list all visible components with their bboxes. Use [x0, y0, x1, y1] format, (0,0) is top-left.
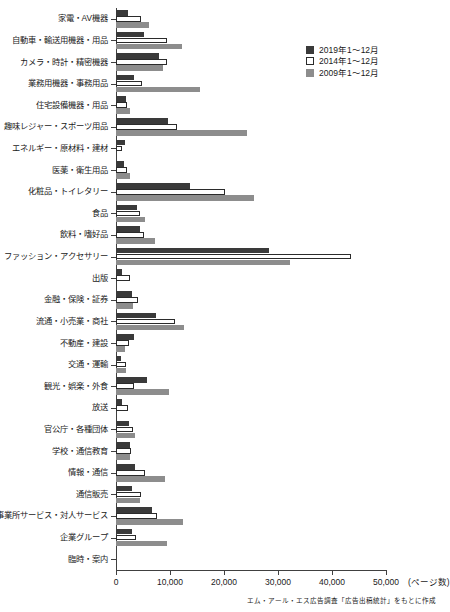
bar-s2014 [116, 124, 177, 130]
x-axis-tick [278, 570, 279, 575]
x-axis-tick-label: 0 [114, 578, 119, 587]
bar-s2009 [116, 519, 183, 525]
bar-s2014 [116, 427, 133, 433]
bar-s2019 [116, 32, 144, 38]
chart-row: 趣味レジャー・スポーツ用品 [116, 116, 386, 138]
chart-row: 学校・通信教育 [116, 440, 386, 462]
bar-s2014 [116, 492, 141, 498]
bar-s2019 [116, 486, 132, 492]
bar-s2009 [116, 108, 130, 114]
bar-s2019 [116, 334, 134, 340]
bar-s2014 [116, 146, 122, 152]
bar-s2019 [116, 118, 168, 124]
bar-s2019 [116, 291, 132, 297]
category-label: 飲料・嗜好品 [60, 230, 108, 238]
bar-s2009 [116, 541, 167, 547]
bar-s2014 [116, 167, 127, 173]
chart-row: 医薬・衛生用品 [116, 159, 386, 181]
chart-row: 流通・小売業・商社 [116, 311, 386, 333]
bar-s2009 [116, 44, 182, 50]
bar-s2009 [116, 130, 247, 136]
legend-label-2019: 2019年1〜12月 [319, 46, 379, 55]
category-label: エネルギー・原材料・建材 [12, 144, 108, 152]
legend-item-2009: 2009年1〜12月 [306, 67, 379, 79]
legend-swatch-2019 [306, 46, 314, 54]
chart-row: 通信販売 [116, 484, 386, 506]
chart-legend: 2019年1〜12月 2014年1〜12月 2009年1〜12月 [306, 44, 379, 79]
bar-s2019 [116, 248, 269, 254]
category-label: 不動産・建設 [60, 339, 108, 347]
bar-s2009 [116, 173, 130, 179]
chart-row: 住宅設備機器・用品 [116, 94, 386, 116]
category-label: 企業グループ [60, 533, 108, 541]
bar-s2009 [116, 22, 149, 28]
x-axis-tick [332, 570, 333, 575]
category-label: 通信販売 [76, 490, 108, 498]
bar-s2014 [116, 448, 131, 454]
bar-s2019 [116, 399, 122, 405]
category-label: 趣味レジャー・スポーツ用品 [4, 122, 108, 130]
bar-s2014 [116, 513, 157, 519]
chart-row: 飲料・嗜好品 [116, 224, 386, 246]
category-label: 化粧品・トイレタリー [28, 187, 108, 195]
y-axis-tick [111, 559, 116, 560]
bar-s2014 [116, 319, 175, 325]
x-axis-tick-label: 30,000 [265, 578, 291, 587]
bar-s2009 [116, 217, 145, 223]
category-label: ファッション・アクセサリー [4, 252, 108, 260]
bar-s2014 [116, 362, 126, 368]
bar-s2019 [116, 53, 159, 59]
bar-s2014 [116, 254, 351, 260]
bar-s2009 [116, 346, 125, 352]
category-label: 食品 [92, 209, 108, 217]
bar-s2019 [116, 269, 122, 275]
bar-s2014 [116, 275, 130, 281]
bar-s2019 [116, 421, 129, 427]
bar-s2009 [116, 325, 184, 331]
x-axis-tick [170, 570, 171, 575]
bar-s2014 [116, 102, 127, 108]
legend-swatch-2014 [306, 57, 314, 65]
bar-s2019 [116, 226, 140, 232]
category-label: 出版 [92, 274, 108, 282]
category-label: 観光・娯楽・外食 [44, 382, 108, 390]
bar-s2019 [116, 313, 156, 319]
bar-s2019 [116, 205, 137, 211]
bar-s2014 [116, 38, 167, 44]
bar-s2019 [116, 507, 152, 513]
bar-s2019 [116, 464, 135, 470]
bar-s2019 [116, 75, 134, 81]
bar-s2019 [116, 529, 132, 535]
x-axis-unit-label: (ページ数) [408, 578, 450, 587]
category-label: 放送 [92, 403, 108, 411]
legend-item-2019: 2019年1〜12月 [306, 44, 379, 56]
bar-s2009 [116, 498, 140, 504]
x-axis-tick [224, 570, 225, 575]
bar-s2019 [116, 377, 147, 383]
bar-s2019 [116, 10, 128, 16]
chart-row: 家電・AV機器 [116, 8, 386, 30]
chart-row: 臨時・案内 [116, 548, 386, 570]
category-label: 臨時・案内 [68, 555, 108, 563]
bar-s2014 [116, 297, 138, 303]
chart-row: エネルギー・原材料・建材 [116, 138, 386, 160]
x-axis-tick [386, 570, 387, 575]
chart-row: 観光・娯楽・外食 [116, 375, 386, 397]
bar-s2009 [116, 65, 163, 71]
chart-row: ファッション・アクセサリー [116, 246, 386, 268]
category-label: 事業所サービス・対人サービス [0, 511, 108, 519]
chart-row: 交通・運輸 [116, 354, 386, 376]
legend-label-2009: 2009年1〜12月 [319, 69, 379, 78]
category-label: カメラ・時計・精密機器 [20, 58, 108, 66]
bar-s2014 [116, 59, 167, 65]
category-label: 交通・運輸 [68, 360, 108, 368]
x-axis-tick-label: 20,000 [211, 578, 237, 587]
bar-s2014 [116, 189, 225, 195]
x-axis-tick-label: 40,000 [319, 578, 345, 587]
category-label: 学校・通信教育 [52, 447, 108, 455]
x-axis-line [116, 570, 387, 571]
bar-s2009 [116, 389, 169, 395]
category-label: 業務用機器・事務用品 [28, 79, 108, 87]
x-axis-tick [116, 570, 117, 575]
bar-s2014 [116, 340, 129, 346]
